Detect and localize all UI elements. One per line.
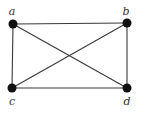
vertex-label-d: d (123, 95, 130, 108)
vertex-label-a: a (9, 5, 16, 18)
edge-a-b (13, 23, 127, 24)
vertex-label-c: c (9, 95, 15, 108)
vertex-label-b: b (122, 5, 129, 18)
edge-a-c (12, 24, 13, 88)
edges-group (12, 23, 127, 88)
graph-diagram: a b c d (0, 0, 141, 113)
vertex-d (123, 84, 132, 93)
vertex-a (9, 20, 18, 29)
labels-group: a b c d (9, 5, 131, 108)
vertex-c (8, 84, 17, 93)
vertex-b (123, 19, 132, 28)
